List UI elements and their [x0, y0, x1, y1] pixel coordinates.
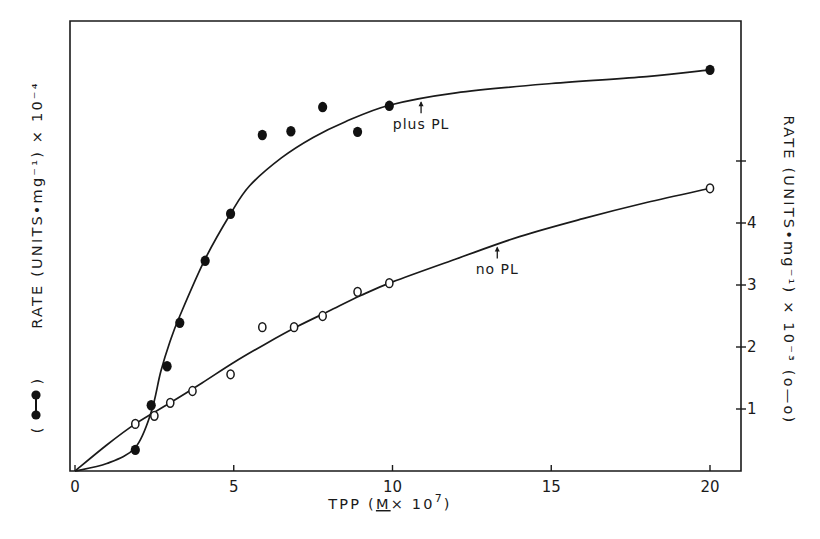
x-axis-title-suffix: ) — [444, 496, 452, 512]
y-tick-label-right: 3 — [747, 276, 757, 294]
point-plus-pl — [131, 445, 140, 455]
point-no-pl — [151, 411, 158, 420]
point-no-pl — [227, 370, 234, 379]
x-tick-label: 10 — [383, 478, 402, 496]
chart: 05101520 1234 plus PLno PL TPP (M× 107) … — [0, 0, 820, 539]
x-tick-label: 20 — [700, 478, 719, 496]
y-tick-label-right: 2 — [747, 338, 757, 356]
point-plus-pl — [226, 209, 235, 219]
point-plus-pl — [175, 318, 184, 328]
point-no-pl — [706, 184, 713, 193]
point-plus-pl — [385, 101, 394, 111]
point-no-pl — [319, 312, 326, 321]
point-no-pl — [259, 323, 266, 332]
point-plus-pl — [147, 400, 156, 410]
x-axis-ticks: 05101520 — [70, 465, 719, 496]
point-no-pl — [354, 287, 361, 296]
point-no-pl — [189, 387, 196, 396]
label-no-pl: no PL — [476, 261, 519, 277]
x-tick-label: 15 — [542, 478, 561, 496]
x-tick-label: 0 — [70, 478, 80, 496]
point-plus-pl — [705, 65, 714, 75]
point-plus-pl — [258, 130, 267, 140]
right-y-axis-title: RATE (UNITS•mg⁻¹) × 10⁻³ (o—o) — [781, 116, 797, 425]
curve-no-pl — [75, 188, 710, 471]
point-no-pl — [132, 419, 139, 428]
point-no-pl — [386, 279, 393, 288]
point-no-pl — [290, 323, 297, 332]
left-y-axis-legend-symbol: ( ) — [29, 377, 45, 434]
point-plus-pl — [201, 256, 210, 266]
x-axis-title-unit: M — [376, 496, 391, 512]
y-tick-label-right: 1 — [747, 400, 757, 418]
point-no-pl — [167, 398, 174, 407]
annotations: plus PLno PL — [393, 101, 519, 277]
label-plus-pl: plus PL — [393, 116, 450, 132]
legend-filled-marker-top — [31, 390, 40, 399]
arrowhead-plus-pl — [419, 101, 424, 106]
point-plus-pl — [318, 102, 327, 112]
x-axis-title-prefix: TPP ( — [327, 496, 376, 512]
point-plus-pl — [353, 127, 362, 137]
y-tick-label-right: 4 — [747, 214, 757, 232]
x-axis-title-multiplier: × 10 — [391, 496, 435, 512]
left-y-axis-title: RATE (UNITS•mg⁻¹) × 10⁻⁴ — [29, 81, 45, 328]
legend-filled-marker-bottom — [31, 410, 40, 419]
arrowhead-no-pl — [495, 246, 500, 251]
point-plus-pl — [286, 126, 295, 136]
point-plus-pl — [162, 361, 171, 371]
x-tick-label: 5 — [229, 478, 239, 496]
x-axis-title-exponent: 7 — [435, 492, 444, 505]
right-y-axis-ticks: 1234 — [736, 161, 757, 418]
